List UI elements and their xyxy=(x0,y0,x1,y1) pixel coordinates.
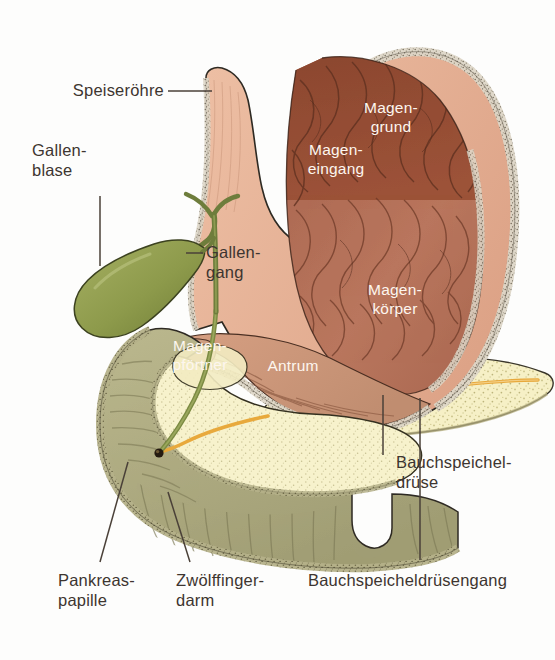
label-pylorus: Magen- pförtner xyxy=(148,336,252,374)
label-fundus: Magen- grund xyxy=(344,98,438,136)
label-pancreatic-papilla: Pankreas- papille xyxy=(58,570,168,610)
label-cardia: Magen- eingang xyxy=(286,140,386,178)
label-pancreatic-duct: Bauchspeicheldrüsengang xyxy=(308,570,548,590)
label-pancreas: Bauchspeichel- drüse xyxy=(396,452,546,492)
label-esophagus: Speiseröhre xyxy=(18,80,164,100)
label-stomach-body: Magen- körper xyxy=(348,280,442,318)
label-bile-duct: Gallen- gang xyxy=(206,242,316,282)
label-gallbladder: Gallen- blase xyxy=(32,140,152,180)
label-antrum: Antrum xyxy=(250,356,336,375)
anatomy-diagram-page: Speiseröhre Gallen- blase Gallen- gang B… xyxy=(0,0,555,660)
pancreatic-papilla-marker xyxy=(154,448,163,457)
label-duodenum: Zwölffinger- darm xyxy=(176,570,296,610)
